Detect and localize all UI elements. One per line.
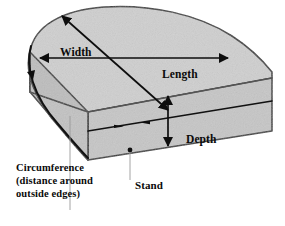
stand-point-dot [128,148,133,153]
diagram-canvas: Width Length Depth Stand Circumference (… [0,0,285,226]
circumference-label-line3: outside edges) [16,187,136,200]
length-label: Length [162,68,198,82]
circumference-label-line1: Circumference [16,161,136,174]
stand-label: Stand [135,179,163,192]
circumference-label: Circumference (distance around outside e… [16,161,136,200]
width-label: Width [60,46,92,60]
circumference-label-line2: (distance around [16,174,136,187]
depth-label: Depth [186,133,217,147]
